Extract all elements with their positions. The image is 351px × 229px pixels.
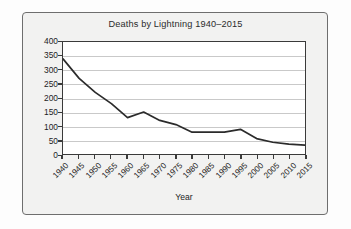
y-tick-label-350: 350 bbox=[34, 51, 58, 59]
y-tick-label-250: 250 bbox=[34, 80, 58, 88]
x-tick-mark-1995 bbox=[240, 155, 241, 159]
y-tick-mark-400 bbox=[58, 41, 62, 42]
x-axis-title: Year bbox=[62, 192, 306, 202]
x-tick-mark-1975 bbox=[175, 155, 176, 159]
chart-page: Deaths by Lightning 1940–2015 4003503002… bbox=[0, 0, 351, 229]
y-tick-mark-50 bbox=[58, 140, 62, 141]
y-tick-label-100: 100 bbox=[34, 123, 58, 131]
x-tick-mark-1970 bbox=[159, 155, 160, 159]
y-tick-mark-300 bbox=[58, 69, 62, 70]
x-tick-mark-2005 bbox=[273, 155, 274, 159]
y-tick-mark-350 bbox=[58, 55, 62, 56]
y-tick-label-300: 300 bbox=[34, 66, 58, 74]
x-tick-mark-1945 bbox=[78, 155, 79, 159]
x-tick-mark-2000 bbox=[257, 155, 258, 159]
y-axis-tick-labels: 400350300250200150100500 bbox=[34, 41, 58, 155]
x-tick-mark-1990 bbox=[224, 155, 225, 159]
x-tick-mark-1955 bbox=[110, 155, 111, 159]
y-tick-mark-150 bbox=[58, 112, 62, 113]
y-tick-label-0: 0 bbox=[34, 151, 58, 159]
chart-title: Deaths by Lightning 1940–2015 bbox=[0, 19, 351, 29]
y-tick-mark-250 bbox=[58, 83, 62, 84]
x-tick-mark-1985 bbox=[208, 155, 209, 159]
series-line-chart bbox=[63, 42, 305, 154]
y-tick-label-150: 150 bbox=[34, 108, 58, 116]
x-tick-mark-1960 bbox=[126, 155, 127, 159]
y-tick-mark-200 bbox=[58, 98, 62, 99]
x-tick-mark-1965 bbox=[143, 155, 144, 159]
x-tick-mark-1980 bbox=[191, 155, 192, 159]
y-tick-label-400: 400 bbox=[34, 37, 58, 45]
x-tick-mark-1950 bbox=[94, 155, 95, 159]
x-tick-mark-1940 bbox=[61, 155, 62, 159]
x-tick-mark-2010 bbox=[289, 155, 290, 159]
y-tick-label-200: 200 bbox=[34, 94, 58, 102]
y-tick-label-50: 50 bbox=[34, 137, 58, 145]
plot-area bbox=[62, 41, 306, 155]
series-line-deaths-by-lightning bbox=[63, 59, 305, 145]
y-tick-mark-100 bbox=[58, 126, 62, 127]
x-tick-mark-2015 bbox=[305, 155, 306, 159]
